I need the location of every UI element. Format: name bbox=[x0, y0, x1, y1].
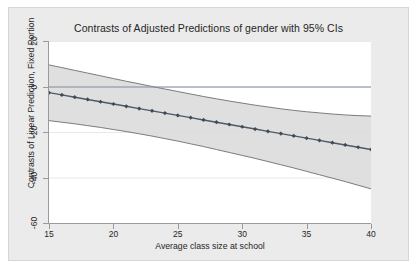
plot-area bbox=[49, 41, 371, 223]
y-tick-label-wrap: -60 bbox=[26, 218, 42, 228]
x-axis-title: Average class size at school bbox=[49, 241, 371, 251]
chart-figure: Contrasts of Adjusted Predictions of gen… bbox=[0, 0, 417, 269]
x-tick-label: 15 bbox=[34, 229, 64, 239]
x-tick-label: 20 bbox=[98, 229, 128, 239]
x-axis-line bbox=[48, 223, 371, 224]
x-tick-label: 35 bbox=[292, 229, 322, 239]
x-tick-label: 30 bbox=[227, 229, 257, 239]
x-tick-label: 40 bbox=[356, 229, 386, 239]
y-axis-title-wrap: Contrasts of Linear Prediction, Fixed Po… bbox=[0, 97, 126, 109]
y-axis-line bbox=[48, 41, 49, 224]
y-axis-title: Contrasts of Linear Prediction, Fixed Po… bbox=[25, 8, 37, 198]
y-tick-mark--60 bbox=[43, 223, 48, 224]
plot-svg bbox=[49, 41, 371, 223]
y-tick-mark-0 bbox=[43, 87, 48, 88]
ci-band-group bbox=[49, 65, 371, 189]
y-tick-mark-20 bbox=[43, 41, 48, 42]
x-tick-label: 25 bbox=[163, 229, 193, 239]
y-tick-mark--20 bbox=[43, 132, 48, 133]
chart-title: Contrasts of Adjusted Predictions of gen… bbox=[0, 22, 417, 34]
y-tick-mark--40 bbox=[43, 178, 48, 179]
